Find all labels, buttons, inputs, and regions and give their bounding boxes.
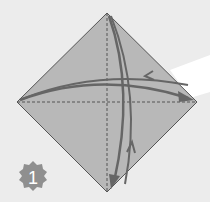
step-number: 1 [22,168,44,188]
